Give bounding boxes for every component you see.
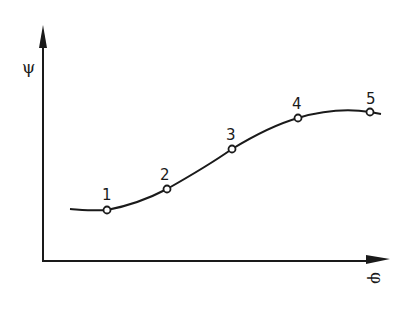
point-1: 1 bbox=[102, 186, 112, 214]
y-axis-label: ψ bbox=[22, 57, 35, 77]
point-label: 5 bbox=[366, 90, 376, 108]
point-5: 5 bbox=[366, 90, 376, 116]
x-axis-arrowhead-icon bbox=[366, 255, 390, 264]
y-axis-arrowhead-icon bbox=[39, 25, 47, 48]
point-label: 1 bbox=[102, 186, 112, 204]
x-axis-label: φ bbox=[367, 272, 387, 284]
point-4: 4 bbox=[292, 95, 302, 122]
point-2: 2 bbox=[160, 166, 171, 193]
point-3: 3 bbox=[226, 126, 236, 153]
point-label: 2 bbox=[160, 166, 170, 184]
point-label: 4 bbox=[292, 95, 302, 113]
point-label: 3 bbox=[226, 126, 236, 144]
diagram-canvas: ψ φ 1 2 3 4 5 bbox=[0, 0, 404, 312]
